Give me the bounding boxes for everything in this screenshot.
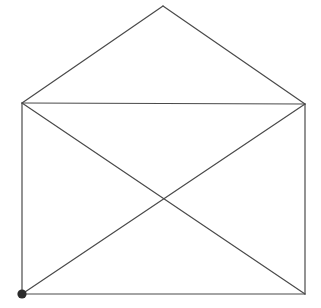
bottom-left-vertex-dot — [17, 289, 26, 298]
vertex-group — [17, 289, 26, 298]
figure-canvas — [0, 0, 321, 308]
envelope-figure — [0, 0, 321, 308]
figure-background — [0, 0, 321, 308]
